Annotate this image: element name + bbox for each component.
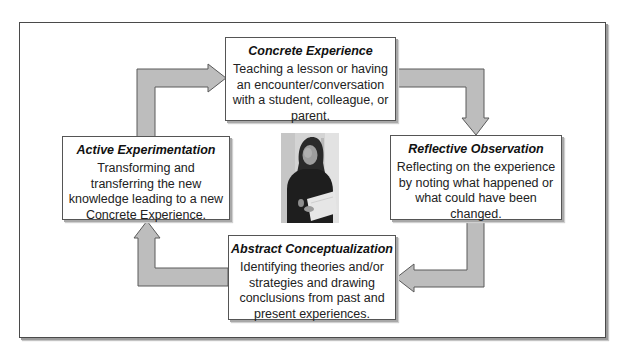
stage-description: Identifying theories and/or strategies a… [229, 260, 395, 322]
person-photo-icon [281, 133, 339, 223]
stage-box-active-experimentation: Active Experimentation Transforming and … [62, 136, 230, 220]
stage-title: Reflective Observation [391, 142, 561, 157]
stage-description: Reflecting on the experience by noting w… [391, 160, 561, 222]
stage-title: Active Experimentation [63, 143, 229, 158]
arrow-reflective-to-abstract-icon [396, 220, 484, 292]
stage-description: Teaching a lesson or having an encounter… [226, 62, 395, 124]
stage-box-abstract-conceptualization: Abstract Conceptualization Identifying t… [228, 235, 396, 320]
center-photo [281, 133, 339, 223]
stage-title: Concrete Experience [226, 44, 395, 59]
arrow-concrete-to-reflective-icon [396, 69, 489, 135]
arrow-active-to-concrete-icon [137, 64, 226, 137]
stage-box-concrete-experience: Concrete Experience Teaching a lesson or… [225, 37, 396, 121]
stage-title: Abstract Conceptualization [229, 242, 395, 257]
stage-description: Transforming and transferring the new kn… [63, 161, 229, 223]
arrow-abstract-to-active-icon [134, 221, 228, 286]
stage-box-reflective-observation: Reflective Observation Reflecting on the… [390, 135, 562, 220]
